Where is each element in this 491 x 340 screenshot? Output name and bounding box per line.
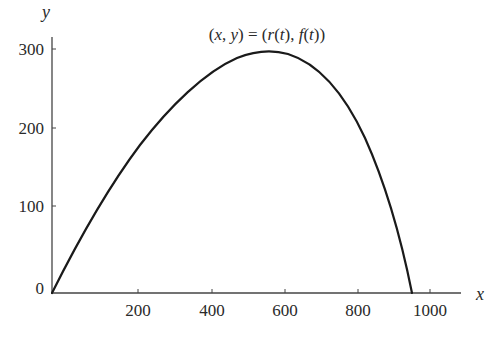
x-tick-label-800: 800 xyxy=(345,301,371,320)
x-axis-label: x xyxy=(475,284,484,304)
chart-canvas: 300 200 100 0 200 400 600 800 1000 y x (… xyxy=(0,0,491,340)
x-tick-label-1000: 1000 xyxy=(413,301,447,320)
trajectory-curve xyxy=(52,51,412,293)
y-tick-label-300: 300 xyxy=(19,40,45,59)
x-tick-label-400: 400 xyxy=(199,301,225,320)
x-tick-label-200: 200 xyxy=(125,301,151,320)
x-tick-label-600: 600 xyxy=(272,301,298,320)
y-tick-label-100: 100 xyxy=(19,197,45,216)
y-axis-label: y xyxy=(40,2,50,22)
curve-annotation: (x, y) = (r(t), f(t)) xyxy=(209,25,325,44)
y-tick-label-200: 200 xyxy=(19,119,45,138)
y-tick-label-0: 0 xyxy=(36,279,45,298)
